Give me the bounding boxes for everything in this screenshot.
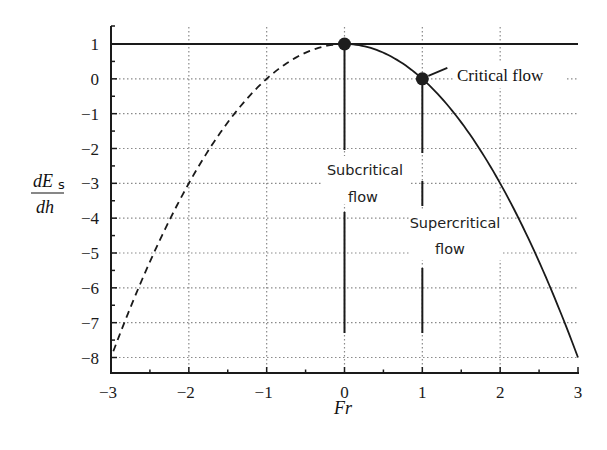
y-tick-label: −3: [81, 174, 99, 193]
max-energy-point: [338, 38, 351, 51]
y-axis-label-subscript: s: [58, 177, 65, 192]
y-tick-label: −5: [81, 244, 99, 263]
x-tick-label: 1: [418, 383, 427, 402]
y-axis-label-numerator: dE: [33, 171, 53, 191]
x-tick-label: −3: [99, 383, 117, 402]
y-axis-label: dE s dh: [31, 171, 65, 217]
supercritical-label-line2: flow: [435, 241, 465, 257]
x-tick-label: −2: [177, 383, 195, 402]
y-tick-label: −2: [81, 140, 99, 159]
critical-flow-point: [416, 72, 429, 85]
y-tick-label: −1: [81, 105, 99, 124]
y-tick-label: −4: [81, 209, 100, 228]
y-tick-label: −7: [81, 314, 100, 333]
x-tick-label: −1: [255, 383, 273, 402]
supercritical-label-line1: Supercritical: [410, 215, 501, 231]
curve-dashed-negative-fr: [113, 44, 344, 351]
critical-flow-label: Critical flow: [457, 66, 544, 85]
chart: 10−1−2−3−4−5−6−7−8−3−2−10123 Subcritical…: [0, 0, 607, 450]
y-axis-label-denominator: dh: [36, 197, 54, 217]
y-tick-label: 0: [91, 70, 100, 89]
subcritical-label-line1: Subcritical: [327, 162, 403, 178]
y-tick-label: −6: [81, 279, 99, 298]
y-tick-label: −8: [81, 349, 99, 368]
x-tick-label: 2: [496, 383, 505, 402]
y-tick-label: 1: [91, 35, 100, 54]
subcritical-label-line2: flow: [348, 189, 378, 205]
x-axis-label: Fr: [333, 398, 353, 418]
critical-flow-pointer: [428, 68, 447, 76]
x-tick-label: 3: [574, 383, 583, 402]
